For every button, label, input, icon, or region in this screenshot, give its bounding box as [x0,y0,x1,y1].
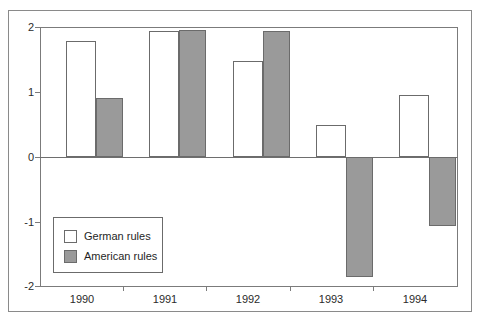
legend-swatch-gray-square-icon [64,250,77,263]
bar-german-1992 [233,61,263,157]
x-tick-sep-3 [290,286,291,291]
legend-label-german: German rules [84,231,151,242]
bar-american-1993 [346,157,373,277]
bar-american-1991 [179,30,206,157]
bar-american-1990 [96,98,123,157]
y-tick-label-0: 0 [28,152,34,163]
plot-top-border [40,27,458,28]
x-tick-label-1993: 1993 [319,293,343,305]
bar-german-1991 [149,31,179,157]
legend-item-american: American rules [64,246,162,266]
bar-american-1994 [429,157,456,226]
x-tick-label-1994: 1994 [403,293,427,305]
legend-swatch-white-square-icon [64,230,77,243]
x-axis-line [40,286,458,287]
legend-label-american: American rules [84,251,157,262]
chart-legend: German rules American rules [53,217,163,273]
legend-item-german: German rules [64,226,162,246]
bar-german-1993 [316,125,346,157]
x-tick-sep-2 [206,286,207,291]
bar-german-1990 [66,41,96,157]
x-tick-label-1991: 1991 [153,293,177,305]
y-tick-label-neg1: -1 [24,217,34,228]
bar-german-1994 [399,95,429,157]
x-tick-label-1990: 1990 [70,293,94,305]
x-tick-label-1992: 1992 [236,293,260,305]
y-tick-label-1: 1 [28,87,34,98]
y-tick-label-2: 2 [28,22,34,33]
zero-baseline [40,157,458,158]
y-tick-label-neg2: -2 [24,281,34,292]
chart-figure: 2 1 0 -1 -2 1990 1991 1992 1993 1994 [0,0,481,320]
x-tick-sep-1 [123,286,124,291]
x-tick-sep-4 [373,286,374,291]
bar-american-1992 [263,31,290,157]
